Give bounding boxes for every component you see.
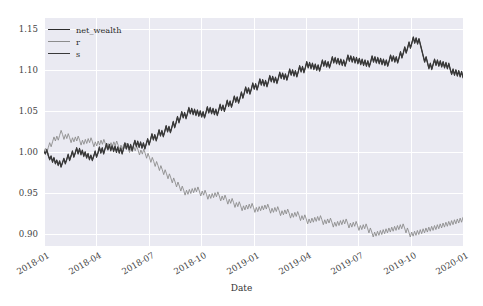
x-tick-2018-04: 2018-04 [62,250,103,280]
legend-label-net-wealth: net_wealth [76,25,121,35]
x-tick-2018-01: 2018-01 [10,250,51,280]
legend-item-net-wealth: net_wealth [48,24,121,35]
y-tick-0.90: 0.90 [0,229,38,239]
y-tick-0.95: 0.95 [0,188,38,198]
legend-swatch-r [48,41,70,42]
legend: net_wealth r s [48,24,121,60]
y-tick-1.10: 1.10 [0,65,38,75]
legend-label-s: s [76,49,80,59]
x-tick-2020-01: 2020-01 [429,250,470,280]
legend-label-r: r [76,37,80,47]
legend-swatch-s [48,53,70,54]
x-tick-2019-04: 2019-04 [272,250,313,280]
x-axis-title: Date [0,283,483,293]
x-tick-2019-10: 2019-10 [376,250,417,280]
legend-item-r: r [48,36,121,47]
x-tick-2019-01: 2019-01 [219,250,260,280]
x-tick-2019-07: 2019-07 [324,250,365,280]
y-tick-1.00: 1.00 [0,147,38,157]
x-tick-2018-07: 2018-07 [114,250,155,280]
y-tick-1.05: 1.05 [0,106,38,116]
x-tick-2018-10: 2018-10 [167,250,208,280]
legend-item-s: s [48,48,121,59]
y-tick-1.15: 1.15 [0,24,38,34]
figure: 0.900.951.001.051.101.15 2018-012018-042… [0,0,483,306]
legend-swatch-net-wealth [48,29,70,30]
